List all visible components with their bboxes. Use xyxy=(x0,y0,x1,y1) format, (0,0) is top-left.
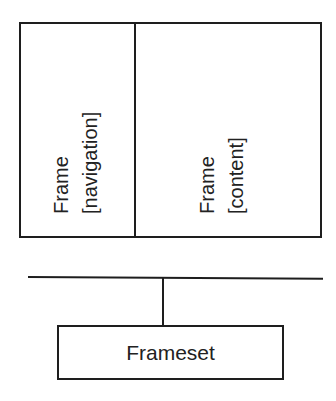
frame-content-title: Frame xyxy=(196,156,218,214)
frame-navigation-title: Frame xyxy=(50,156,72,214)
frame-divider xyxy=(134,22,136,238)
frame-navigation-subtitle: [navigation] xyxy=(79,112,101,214)
connector-horizontal-line xyxy=(28,276,323,280)
connector-vertical-line xyxy=(162,277,164,327)
frameset-box: Frameset xyxy=(57,325,284,380)
frameset-label: Frameset xyxy=(126,341,215,365)
frame-content-subtitle: [content] xyxy=(225,137,247,214)
